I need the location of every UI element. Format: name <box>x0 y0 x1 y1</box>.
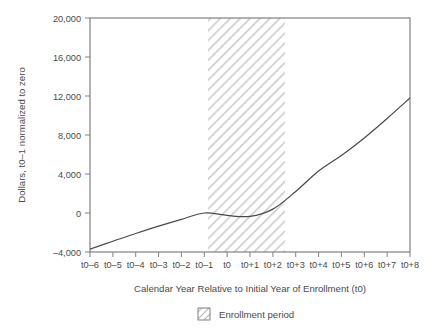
y-tick-label: 16,000 <box>53 53 81 63</box>
x-tick-label: t0–2 <box>172 260 190 270</box>
y-tick-label: 4,000 <box>58 170 81 180</box>
line-chart-svg: 20,000 16,000 12,000 8,000 4,000 0 –4,00… <box>0 0 433 331</box>
y-tick-label: 12,000 <box>53 92 81 102</box>
x-tick-label: t0+4 <box>310 260 328 270</box>
x-tick-label: t0+8 <box>401 260 419 270</box>
x-tick-label: t0–3 <box>150 260 168 270</box>
x-tick-label: t0+5 <box>332 260 350 270</box>
x-tick-label: t0 <box>223 260 231 270</box>
legend-item-label: Enrollment period <box>219 309 294 320</box>
x-tick-label: t0–4 <box>127 260 145 270</box>
y-tick-label: 0 <box>76 209 81 219</box>
hatch-swatch-icon <box>198 308 210 320</box>
y-axis-title: Dollars, t0–1 normalized to zero <box>16 67 27 202</box>
x-tick-label: t0+1 <box>241 260 259 270</box>
x-tick-label: t0+7 <box>378 260 396 270</box>
y-tick-label: 8,000 <box>58 131 81 141</box>
y-tick-label: –4,000 <box>53 248 81 258</box>
x-tick-label: t0–1 <box>195 260 213 270</box>
x-tick-label: t0+6 <box>355 260 373 270</box>
chart-figure: 20,000 16,000 12,000 8,000 4,000 0 –4,00… <box>0 0 433 331</box>
y-tick-label: 20,000 <box>53 14 81 24</box>
x-axis-tick-labels: t0–6 t0–5 t0–4 t0–3 t0–2 t0–1 t0 t0+1 t0… <box>81 260 419 270</box>
x-tick-label: t0+2 <box>264 260 282 270</box>
x-tick-label: t0–5 <box>104 260 122 270</box>
x-tick-label: t0+3 <box>287 260 305 270</box>
x-axis-title: Calendar Year Relative to Initial Year o… <box>134 283 366 294</box>
x-tick-label: t0–6 <box>81 260 99 270</box>
